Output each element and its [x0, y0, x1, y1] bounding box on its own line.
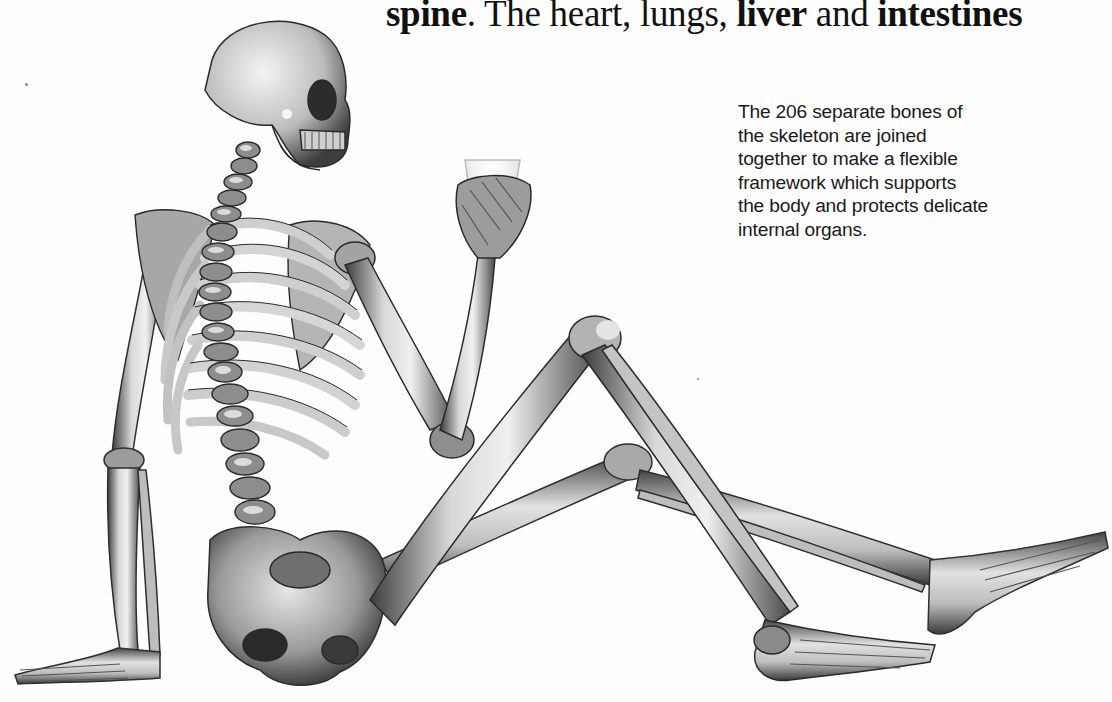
skull — [205, 21, 350, 170]
left-arm — [15, 232, 168, 684]
skeleton-illustration — [0, 0, 1112, 702]
pelvis — [208, 527, 386, 685]
ribcage — [135, 142, 370, 524]
right-arm — [335, 160, 531, 458]
